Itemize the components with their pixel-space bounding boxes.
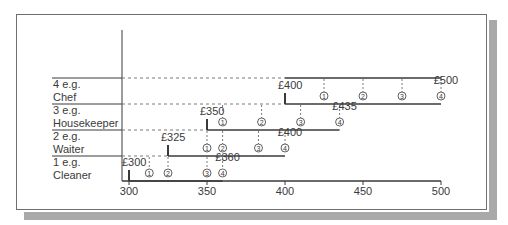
point-number: 1 [322,93,326,100]
grade-label-job: Cleaner [53,169,92,181]
x-tick-label: 400 [276,185,294,197]
grade-end-label: £435 [332,100,356,112]
x-tick-label: 450 [354,185,372,197]
point-number: 2 [221,145,225,152]
point-number: 1 [205,145,209,152]
point-number: 1 [221,119,225,126]
grade-end-label: £500 [434,74,458,86]
x-tick-label: 500 [432,185,450,197]
point-number: 2 [166,170,170,177]
grade-label-number: 3 e.g. [53,104,81,116]
figure: 3003504004505001 e.g.Cleaner£3001234£360… [0,0,508,225]
grade-label-job: Housekeeper [53,117,119,129]
grade-label-job: Waiter [53,143,85,155]
grade-start-label: £300 [122,156,146,168]
point-number: 3 [205,170,209,177]
grade-start-label: £325 [161,131,185,143]
point-number: 4 [221,170,225,177]
pay-scale-diagram: 3003504004505001 e.g.Cleaner£3001234£360… [0,0,508,225]
grade-end-label: £360 [215,151,239,163]
point-number: 1 [147,170,151,177]
grade-label-number: 2 e.g. [53,130,81,142]
grade-start-label: £400 [278,79,302,91]
grade-end-label: £400 [278,126,302,138]
point-number: 2 [260,119,264,126]
point-number: 4 [283,145,287,152]
x-tick-label: 300 [120,185,138,197]
grade-label-job: Chef [53,91,77,103]
point-number: 4 [439,93,443,100]
x-tick-label: 350 [198,185,216,197]
grade-label-number: 1 e.g. [53,156,81,168]
point-number: 3 [299,119,303,126]
point-number: 3 [400,93,404,100]
grade-start-label: £350 [200,105,224,117]
point-number: 2 [361,93,365,100]
point-number: 4 [338,119,342,126]
grade-label-number: 4 e.g. [53,78,81,90]
point-number: 3 [257,145,261,152]
